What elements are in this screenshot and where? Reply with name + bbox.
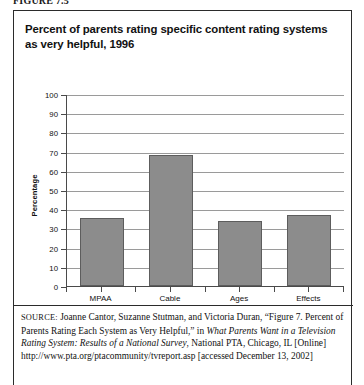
x-tick-mark — [170, 287, 171, 292]
bar-series — [67, 95, 344, 286]
x-tick-label-cable: Cable — [159, 294, 180, 303]
y-tick-label: 50 — [49, 187, 58, 196]
source-citation: SOURCE: Joanne Cantor, Suzanne Stutman, … — [21, 311, 346, 362]
y-tick-label: 60 — [49, 167, 58, 176]
bar-slot — [67, 95, 136, 286]
bar-slot — [206, 95, 275, 286]
bar-slot — [275, 95, 344, 286]
figure-label: FIGURE 7.5 — [13, 0, 69, 6]
y-tick-label: 30 — [49, 225, 58, 234]
y-tick-label: 70 — [49, 148, 58, 157]
chart-plot-area: Percentage 0102030405060708090100 MPAACa… — [14, 73, 353, 313]
bar-ages — [218, 221, 262, 286]
x-tick-mark — [101, 287, 102, 292]
figure-box: Percent of parents rating specific conte… — [13, 10, 352, 385]
x-axis-boundary-tick — [205, 287, 206, 292]
y-axis-title: Percentage — [30, 146, 39, 246]
bar-slot — [136, 95, 205, 286]
plot-grid: 0102030405060708090100 — [66, 95, 344, 287]
x-tick-mark — [239, 287, 240, 292]
y-tick-label: 10 — [49, 263, 58, 272]
y-tick-label: 80 — [49, 129, 58, 138]
x-tick-label-mpaa: MPAA — [90, 294, 112, 303]
chart-title: Percent of parents rating specific conte… — [25, 22, 333, 52]
y-tick-label: 90 — [49, 110, 58, 119]
x-axis-boundary-tick — [274, 287, 275, 292]
bar-mpaa — [80, 218, 124, 286]
x-axis-boundary-tick — [66, 287, 67, 292]
y-tick-label: 20 — [49, 244, 58, 253]
source-divider — [14, 305, 353, 306]
x-tick-label-effects: Effects — [296, 294, 320, 303]
x-tick-label-ages: Ages — [230, 294, 248, 303]
y-tick-label: 100 — [45, 91, 58, 100]
x-axis-ticks: MPAACableAgesEffects — [66, 287, 344, 313]
x-axis-boundary-tick — [343, 287, 344, 292]
x-tick-mark — [308, 287, 309, 292]
x-axis-boundary-tick — [135, 287, 136, 292]
bar-cable — [149, 155, 193, 286]
source-kicker: SOURCE: — [21, 313, 58, 322]
y-tick-label: 40 — [49, 206, 58, 215]
y-tick-label: 0 — [54, 283, 58, 292]
bar-effects — [287, 215, 331, 286]
